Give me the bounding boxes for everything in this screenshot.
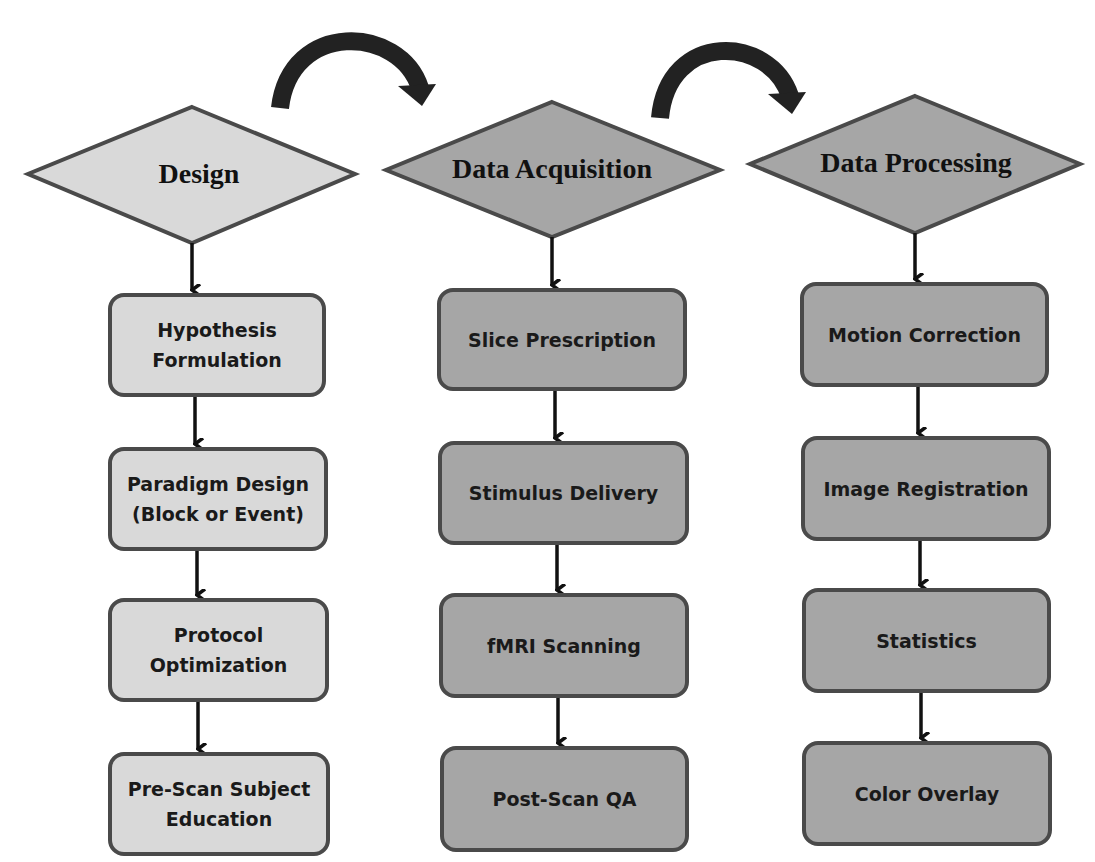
- step-box: fMRI Scanning: [439, 593, 689, 698]
- step-box: Image Registration: [801, 436, 1051, 541]
- phase-title-design: Design: [159, 158, 240, 190]
- step-box: Post-Scan QA: [440, 746, 689, 852]
- curved-arrow-icon: [280, 41, 436, 108]
- step-box: Paradigm Design(Block or Event): [108, 447, 328, 551]
- step-box: Statistics: [802, 588, 1051, 693]
- curved-arrow-icon: [660, 51, 806, 118]
- step-box: Pre-Scan SubjectEducation: [108, 752, 330, 856]
- step-box: Color Overlay: [802, 741, 1052, 846]
- step-box: HypothesisFormulation: [108, 293, 326, 397]
- phase-title-data-processing: Data Processing: [820, 147, 1012, 179]
- phase-title-data-acquisition: Data Acquisition: [452, 153, 652, 185]
- step-box: Stimulus Delivery: [438, 441, 689, 545]
- step-box: Slice Prescription: [437, 288, 687, 391]
- step-box: Motion Correction: [800, 282, 1049, 387]
- flowchart-connectors: [0, 0, 1095, 862]
- step-box: ProtocolOptimization: [108, 598, 329, 702]
